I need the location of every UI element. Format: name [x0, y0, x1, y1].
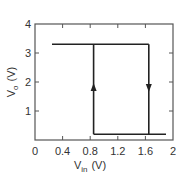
x-tick-label: 2 — [170, 145, 176, 157]
x-tick-label: 0 — [32, 145, 38, 157]
y-axis-label: Vo(V) — [5, 67, 20, 97]
y-axis-label-sub: o — [11, 85, 20, 90]
arrow-up-icon — [91, 83, 97, 91]
x-axis-label-sub: in — [81, 165, 87, 172]
x-axis-label-unit: (V) — [91, 159, 106, 171]
x-tick-label: 0.8 — [83, 145, 98, 157]
y-tick-label: 4 — [25, 18, 31, 30]
y-tick-labels: 1 2 3 4 — [25, 18, 31, 117]
y-tick-label: 2 — [25, 76, 31, 88]
y-tick-label: 1 — [25, 105, 31, 117]
plot-frame — [35, 24, 173, 140]
x-ticks — [63, 24, 146, 140]
x-tick-label: 0.4 — [55, 145, 70, 157]
arrow-down-icon — [146, 84, 152, 92]
x-tick-labels: 0 0.4 0.8 1.2 1.6 2 — [32, 145, 176, 157]
y-ticks — [35, 53, 173, 111]
x-axis-label: Vin(V) — [74, 159, 106, 172]
hysteresis-chart: 0 0.4 0.8 1.2 1.6 2 1 2 3 4 Vin(V) Vo(V) — [0, 0, 176, 172]
y-axis-label-unit: (V) — [5, 67, 17, 82]
x-tick-label: 1.2 — [110, 145, 125, 157]
y-tick-label: 3 — [25, 47, 31, 59]
x-tick-label: 1.6 — [138, 145, 153, 157]
